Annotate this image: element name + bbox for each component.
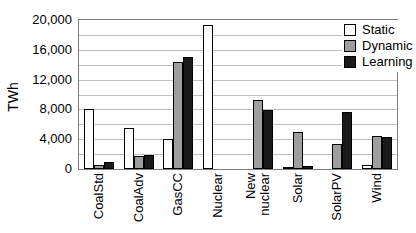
legend-swatch-dynamic bbox=[344, 40, 356, 52]
bar-learning-solarpv bbox=[342, 112, 352, 169]
bar-learning-coalstd bbox=[104, 162, 114, 169]
bar-dynamic-coaladv bbox=[134, 156, 144, 169]
x-category-label-solar: Solar bbox=[291, 173, 305, 231]
x-category-label-new-nuclear: New nuclear bbox=[244, 173, 272, 231]
y-tick-label: 16,000 bbox=[0, 43, 72, 57]
bar-dynamic-solar bbox=[293, 132, 303, 169]
bar-dynamic-gascc bbox=[173, 62, 183, 169]
bar-dynamic-solarpv bbox=[332, 144, 342, 169]
y-tick-label: 0 bbox=[0, 162, 72, 176]
legend-label-static: Static bbox=[362, 23, 395, 37]
gridline bbox=[79, 109, 397, 110]
chart-figure: TWh 04,0008,00012,00016,00020,000 CoalSt… bbox=[0, 0, 416, 233]
x-category-label-nuclear: Nuclear bbox=[211, 173, 225, 231]
y-tick-label: 20,000 bbox=[0, 13, 72, 27]
gridline bbox=[79, 80, 397, 81]
x-category-label-solarpv: SolarPV bbox=[330, 173, 344, 231]
bar-static-coaladv bbox=[124, 128, 134, 169]
bar-static-coalstd bbox=[84, 109, 94, 169]
bar-learning-new-nuclear bbox=[263, 110, 273, 169]
bar-dynamic-coalstd bbox=[94, 165, 104, 169]
bar-learning-wind bbox=[382, 137, 392, 169]
legend-item-dynamic: Dynamic bbox=[344, 38, 416, 54]
gridline bbox=[79, 95, 397, 96]
bar-static-wind bbox=[362, 165, 372, 169]
x-category-label-coalstd: CoalStd bbox=[92, 173, 106, 231]
legend-item-static: Static bbox=[344, 22, 416, 38]
bar-learning-gascc bbox=[183, 57, 193, 169]
bar-static-gascc bbox=[163, 139, 173, 169]
bar-learning-solar bbox=[303, 166, 313, 169]
legend-label-learning: Learning bbox=[362, 55, 413, 69]
y-tick-label: 4,000 bbox=[0, 132, 72, 146]
bar-dynamic-wind bbox=[372, 136, 382, 169]
legend-item-learning: Learning bbox=[344, 54, 416, 70]
legend-swatch-static bbox=[344, 24, 356, 36]
y-tick-label: 8,000 bbox=[0, 102, 72, 116]
legend-swatch-learning bbox=[344, 56, 356, 68]
legend-label-dynamic: Dynamic bbox=[362, 39, 413, 53]
bar-static-nuclear bbox=[203, 25, 213, 169]
bar-static-solar bbox=[283, 167, 293, 169]
bar-learning-coaladv bbox=[144, 155, 154, 169]
legend: StaticDynamicLearning bbox=[342, 20, 416, 72]
x-category-label-coaladv: CoalAdv bbox=[132, 173, 146, 231]
x-category-label-wind: Wind bbox=[370, 173, 384, 231]
bar-dynamic-new-nuclear bbox=[253, 100, 263, 169]
y-tick-label: 12,000 bbox=[0, 73, 72, 87]
x-category-label-gascc: GasCC bbox=[171, 173, 185, 231]
